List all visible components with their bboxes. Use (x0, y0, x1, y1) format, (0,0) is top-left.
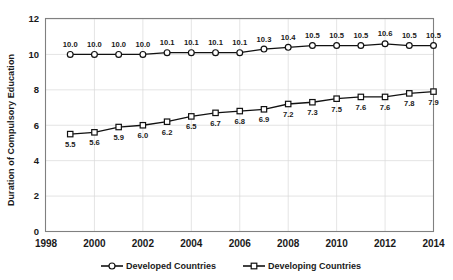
data-point-marker (261, 107, 266, 112)
data-label: 7.6 (380, 103, 391, 112)
data-label: 10.5 (353, 31, 369, 40)
y-tick-label: 0 (34, 226, 39, 237)
x-tick-label: 2010 (326, 238, 349, 249)
data-label: 7.8 (404, 99, 415, 108)
data-label: 10.1 (160, 38, 176, 47)
data-point-marker (285, 44, 291, 50)
data-label: 6.7 (210, 119, 221, 128)
data-label: 7.5 (331, 105, 342, 114)
data-label: 10.6 (378, 29, 393, 38)
data-label: 6.2 (162, 128, 173, 137)
legend-marker-circle-icon (109, 263, 115, 269)
data-point-marker (92, 52, 98, 58)
x-tick-label: 2006 (229, 238, 252, 249)
line-chart: Duration of Compulsory Education 0246810… (0, 0, 453, 280)
data-point-marker (358, 94, 363, 99)
y-tick-label: 10 (28, 49, 39, 60)
x-axis-tick-labels: 199820002002200420062008201020122014 (35, 238, 445, 249)
data-label: 10.0 (63, 40, 78, 49)
data-point-marker (116, 52, 122, 58)
data-point-marker (140, 123, 145, 128)
x-tick-label: 2004 (180, 238, 203, 249)
data-point-marker (334, 43, 340, 49)
legend-label: Developed Countries (126, 261, 216, 271)
data-label: 5.9 (113, 133, 124, 142)
data-label: 10.4 (281, 33, 297, 42)
data-label: 10.1 (184, 38, 200, 47)
data-point-marker (406, 43, 412, 49)
data-label: 6.0 (138, 131, 149, 140)
data-point-marker (189, 114, 194, 119)
data-label: 7.2 (283, 110, 294, 119)
data-label: 10.0 (111, 40, 126, 49)
data-label: 10.5 (305, 31, 321, 40)
data-point-marker (116, 124, 121, 129)
data-point-marker (164, 119, 169, 124)
y-tick-label: 8 (34, 84, 39, 95)
data-point-marker (67, 52, 73, 58)
y-axis-title: Duration of Compulsory Education (6, 54, 16, 206)
data-point-marker (334, 96, 339, 101)
data-point-marker (407, 91, 412, 96)
data-point-marker (68, 131, 73, 136)
data-point-marker (188, 50, 194, 56)
data-label: 6.9 (259, 115, 270, 124)
data-label: 10.5 (426, 31, 442, 40)
data-label: 7.3 (307, 108, 318, 117)
data-label: 10.5 (329, 31, 345, 40)
x-tick-label: 2012 (374, 238, 397, 249)
data-point-marker (140, 52, 146, 58)
data-label: 6.5 (186, 122, 197, 131)
data-label: 6.8 (234, 117, 245, 126)
legend-label: Developing Countries (268, 261, 361, 271)
data-point-marker (431, 89, 436, 94)
data-label: 10.1 (208, 38, 224, 47)
data-label: 10.0 (135, 40, 150, 49)
x-tick-label: 2002 (132, 238, 155, 249)
data-point-marker (213, 50, 219, 56)
data-label: 7.6 (356, 103, 367, 112)
data-point-marker (164, 50, 170, 56)
y-tick-label: 6 (34, 120, 39, 131)
data-point-marker (382, 94, 387, 99)
data-point-marker (237, 50, 243, 56)
data-label: 10.1 (232, 38, 248, 47)
data-point-marker (92, 130, 97, 135)
data-label: 5.6 (89, 138, 100, 147)
data-label: 10.0 (87, 40, 102, 49)
legend-marker-square-icon (251, 263, 257, 269)
y-tick-label: 4 (34, 155, 40, 166)
chart-container: Duration of Compulsory Education 0246810… (0, 0, 453, 280)
data-point-marker (310, 43, 316, 49)
data-label: 5.5 (65, 140, 76, 149)
y-tick-label: 2 (34, 190, 39, 201)
data-point-marker (310, 100, 315, 105)
data-point-marker (431, 43, 437, 49)
data-point-marker (358, 43, 364, 49)
y-tick-label: 12 (28, 13, 39, 24)
data-label: 10.5 (402, 31, 418, 40)
data-label: 10.3 (257, 35, 272, 44)
x-tick-label: 2008 (277, 238, 300, 249)
x-tick-label: 2000 (83, 238, 106, 249)
data-point-marker (382, 41, 388, 47)
data-point-marker (285, 101, 290, 106)
data-label: 7.9 (428, 98, 439, 107)
data-point-marker (261, 46, 267, 52)
data-point-marker (213, 110, 218, 115)
x-tick-label: 2014 (422, 238, 445, 249)
data-point-marker (237, 108, 242, 113)
x-tick-label: 1998 (35, 238, 58, 249)
y-axis-title-text: Duration of Compulsory Education (6, 54, 16, 206)
